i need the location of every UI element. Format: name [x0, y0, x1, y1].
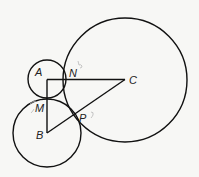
label-c: C [129, 74, 137, 86]
label-m: M [35, 102, 45, 114]
tangent-circles-diagram: A N C M P B [0, 0, 199, 177]
segment-bc [47, 80, 125, 134]
label-p: P [79, 112, 87, 124]
pencil-mark-n [78, 61, 82, 68]
label-n: N [69, 67, 77, 79]
label-b: B [36, 129, 43, 141]
pencil-mark-p [91, 112, 93, 118]
label-a: A [34, 66, 42, 78]
